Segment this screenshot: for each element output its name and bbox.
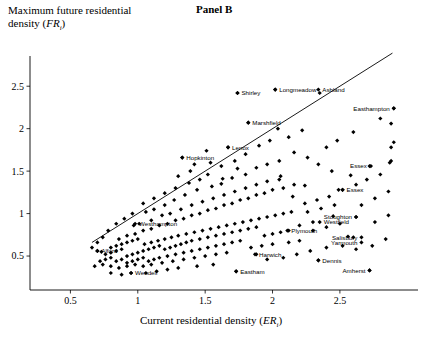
data-point <box>327 194 331 198</box>
data-point <box>187 181 191 185</box>
data-point <box>292 183 296 187</box>
point-label: Westfield <box>324 218 350 225</box>
data-point <box>373 220 377 224</box>
scatter-plot: 0.511.522.50.511.522.5ShirleyLongmeadowA… <box>0 0 422 338</box>
data-point <box>136 251 140 255</box>
data-point-labeled <box>129 271 133 275</box>
data-point <box>246 196 250 200</box>
data-point <box>389 121 393 125</box>
data-point <box>109 256 113 260</box>
data-point <box>254 225 258 229</box>
data-point <box>211 262 215 266</box>
data-point <box>211 196 215 200</box>
data-point <box>176 234 180 238</box>
data-point <box>365 178 369 182</box>
data-point <box>188 169 192 173</box>
data-point <box>254 183 258 187</box>
data-point <box>171 259 175 263</box>
data-point <box>303 201 307 205</box>
point-label: Shirley <box>241 89 261 96</box>
data-point <box>287 135 291 139</box>
data-point-labeled <box>359 235 363 239</box>
data-point <box>389 145 393 149</box>
data-point <box>141 249 145 253</box>
data-point <box>141 264 145 268</box>
data-point <box>370 244 374 248</box>
data-point-labeled <box>235 91 239 95</box>
data-point <box>243 152 247 156</box>
data-point <box>233 222 237 226</box>
data-point <box>101 235 105 239</box>
data-point <box>117 237 121 241</box>
data-point <box>222 242 226 246</box>
data-point <box>141 201 145 205</box>
data-point <box>172 198 176 202</box>
data-point <box>246 227 250 231</box>
point-label: Essex <box>347 186 365 193</box>
data-point <box>254 193 258 197</box>
data-point-labeled <box>318 220 322 224</box>
data-point <box>222 193 226 197</box>
data-point <box>249 245 253 249</box>
data-point <box>176 266 180 270</box>
data-point <box>133 232 137 236</box>
data-point <box>195 264 199 268</box>
data-point <box>265 257 269 261</box>
data-point <box>192 162 196 166</box>
point-label: Essex <box>350 162 368 169</box>
data-point <box>146 259 150 263</box>
data-point <box>378 116 382 120</box>
data-point <box>192 230 196 234</box>
data-point <box>233 159 237 163</box>
data-point <box>225 223 229 227</box>
data-point <box>260 244 264 248</box>
data-point <box>238 239 242 243</box>
data-point <box>93 264 97 268</box>
data-point <box>214 206 218 210</box>
data-point <box>190 249 194 253</box>
data-point <box>281 211 285 215</box>
data-point <box>279 230 283 234</box>
point-label: Hopkinton <box>186 154 214 161</box>
data-point <box>210 184 214 188</box>
data-point <box>324 225 328 229</box>
data-point <box>173 252 177 256</box>
data-point <box>254 166 258 170</box>
data-point <box>378 172 382 176</box>
data-point <box>149 262 153 266</box>
y-tick-label: 2.5 <box>12 81 25 92</box>
data-point <box>149 227 153 231</box>
data-point <box>262 191 266 195</box>
data-point <box>182 257 186 261</box>
data-point <box>384 237 388 241</box>
x-tick-label: 1 <box>135 295 140 306</box>
data-point <box>217 225 221 229</box>
data-point <box>106 228 110 232</box>
data-point <box>230 201 234 205</box>
data-point <box>198 247 202 251</box>
x-tick-label: 1.5 <box>199 295 212 306</box>
data-point <box>182 217 186 221</box>
data-point <box>206 245 210 249</box>
data-point <box>300 128 304 132</box>
data-point <box>270 232 274 236</box>
data-point <box>305 210 309 214</box>
point-label: Longmeadow <box>279 86 317 93</box>
data-point <box>219 182 223 186</box>
data-point <box>125 264 129 268</box>
data-point <box>243 172 247 176</box>
data-point <box>265 162 269 166</box>
data-point <box>295 252 299 256</box>
data-point <box>289 210 293 214</box>
data-point-labeled <box>95 249 99 253</box>
data-point <box>130 252 134 256</box>
data-point <box>230 230 234 234</box>
data-point <box>133 262 137 266</box>
data-point <box>152 207 156 211</box>
data-point <box>305 155 309 159</box>
data-point <box>152 245 156 249</box>
data-point <box>144 210 148 214</box>
point-label: Yarmouth <box>331 239 358 246</box>
data-point <box>103 257 107 261</box>
data-point <box>281 186 285 190</box>
